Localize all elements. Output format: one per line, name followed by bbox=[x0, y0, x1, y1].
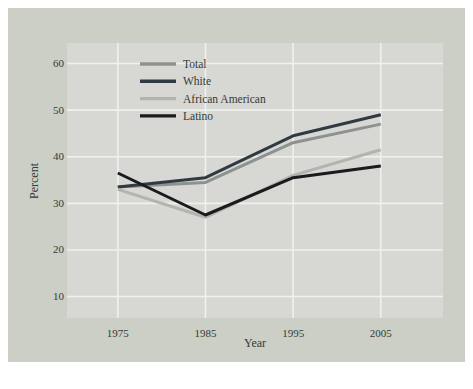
x-tick-label-1995: 1995 bbox=[282, 327, 305, 339]
x-tick-label-2005: 2005 bbox=[370, 327, 393, 339]
x-tick-label-1985: 1985 bbox=[194, 327, 217, 339]
y-tick-label-30: 30 bbox=[53, 197, 65, 209]
legend-label-white: White bbox=[183, 75, 211, 87]
y-tick-label-10: 10 bbox=[53, 290, 65, 302]
legend-label-latino: Latino bbox=[183, 110, 213, 122]
y-tick-label-20: 20 bbox=[53, 243, 65, 255]
legend-label-total: Total bbox=[183, 58, 206, 70]
legend-label-african-american: African American bbox=[183, 93, 266, 105]
plot-area bbox=[67, 43, 443, 318]
y-tick-label-50: 50 bbox=[53, 104, 65, 116]
y-tick-label-60: 60 bbox=[53, 57, 65, 69]
line-chart-figure: 102030405060 1975198519952005 TotalWhite… bbox=[0, 0, 473, 389]
x-tick-label-1975: 1975 bbox=[107, 327, 130, 339]
y-axis-title: Percent bbox=[27, 162, 41, 199]
y-tick-label-40: 40 bbox=[53, 150, 65, 162]
x-axis-title: Year bbox=[244, 336, 266, 350]
